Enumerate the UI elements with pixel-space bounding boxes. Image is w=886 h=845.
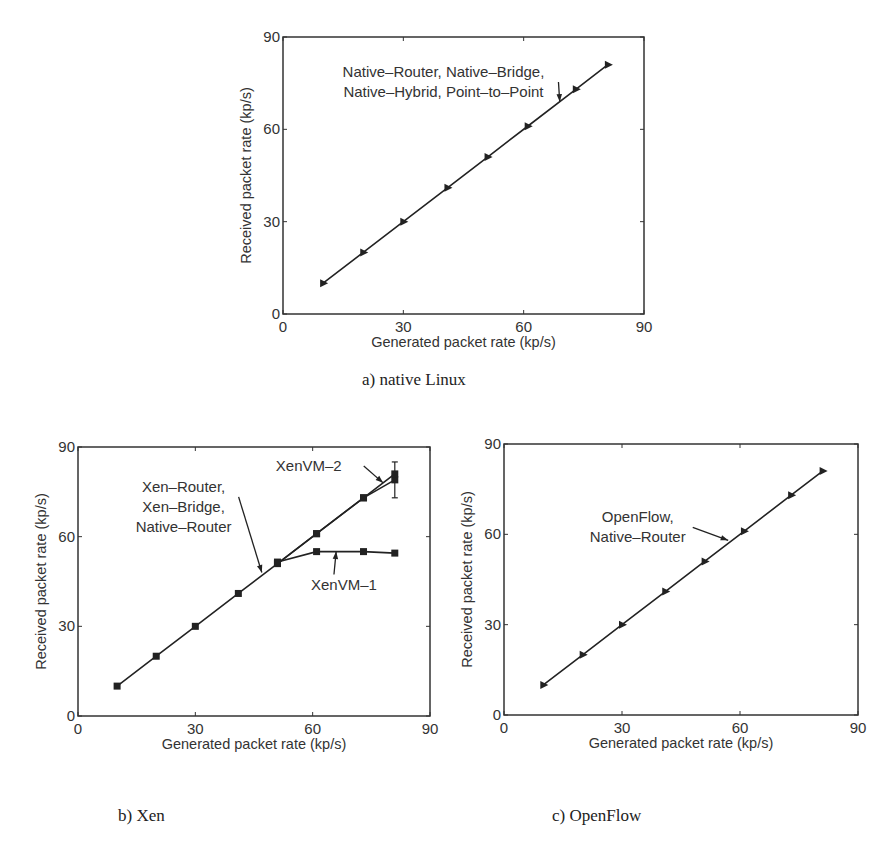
y-tick-label: 60 <box>58 528 75 545</box>
annotation-label: XenVM–2 <box>276 457 342 474</box>
x-tick-label: 0 <box>74 720 82 737</box>
data-point-marker <box>605 61 613 69</box>
x-tick-label: 0 <box>279 318 287 335</box>
data-point-marker <box>313 548 320 555</box>
caption-b: b) Xen <box>118 806 165 826</box>
y-tick-label: 0 <box>272 305 280 322</box>
x-tick-label: 60 <box>304 720 321 737</box>
x-tick-label: 90 <box>422 720 439 737</box>
y-tick-label: 90 <box>484 435 501 452</box>
y-axis-label: Received packet rate (kp/s) <box>238 87 254 264</box>
data-point-marker <box>192 623 199 630</box>
chart-c: 03060900306090Generated packet rate (kp/… <box>459 435 866 751</box>
data-point-marker <box>274 559 281 566</box>
y-tick-label: 0 <box>493 706 501 723</box>
annotation-label: Native–Router, Native–Bridge, <box>343 63 545 80</box>
figure-canvas: 03060900306090Generated packet rate (kp/… <box>0 0 886 845</box>
series-line <box>543 471 822 685</box>
x-axis-label: Generated packet rate (kp/s) <box>162 736 347 752</box>
data-point-marker <box>313 530 320 537</box>
y-axis-label: Received packet rate (kp/s) <box>459 491 475 668</box>
x-tick-label: 60 <box>515 318 532 335</box>
caption-a: a) native Linux <box>362 370 466 390</box>
x-tick-label: 90 <box>636 318 653 335</box>
data-point-marker <box>235 590 242 597</box>
annotation-label: Native–Hybrid, Point–to–Point <box>343 83 544 100</box>
y-tick-label: 30 <box>484 616 501 633</box>
y-tick-label: 60 <box>263 120 280 137</box>
data-point-marker <box>360 494 367 501</box>
y-tick-label: 0 <box>67 707 75 724</box>
x-tick-label: 0 <box>500 719 508 736</box>
caption-c: c) OpenFlow <box>552 806 641 826</box>
x-tick-label: 90 <box>850 719 867 736</box>
arrowhead-icon <box>257 565 262 573</box>
y-tick-label: 90 <box>58 438 75 455</box>
chart-b: 03060900306090Generated packet rate (kp/… <box>33 438 438 752</box>
y-tick-label: 30 <box>58 617 75 634</box>
annotation-label: Native–Router <box>136 518 232 535</box>
x-axis-label: Generated packet rate (kp/s) <box>371 334 556 350</box>
x-axis-label: Generated packet rate (kp/s) <box>589 735 774 751</box>
annotation-label: XenVM–1 <box>311 576 377 593</box>
x-tick-label: 30 <box>395 318 412 335</box>
data-point-marker <box>153 653 160 660</box>
annotation-label: Native–Router <box>590 528 686 545</box>
annotation-label: OpenFlow, <box>602 508 674 525</box>
x-tick-label: 30 <box>187 720 204 737</box>
annotation-label: Xen–Router, <box>142 478 225 495</box>
y-tick-label: 30 <box>263 213 280 230</box>
x-tick-label: 30 <box>614 719 631 736</box>
arrowhead-icon <box>720 535 728 540</box>
data-point-marker <box>360 548 367 555</box>
data-point-marker <box>114 683 121 690</box>
x-tick-label: 60 <box>732 719 749 736</box>
series-line <box>277 474 394 564</box>
chart-a: 03060900306090Generated packet rate (kp/… <box>238 28 652 350</box>
annotation-arrow <box>239 497 262 573</box>
y-tick-label: 60 <box>484 525 501 542</box>
annotation-label: Xen–Bridge, <box>142 498 225 515</box>
data-point-marker <box>391 550 398 557</box>
data-point-marker <box>820 467 828 475</box>
y-axis-label: Received packet rate (kp/s) <box>33 493 49 670</box>
y-tick-label: 90 <box>263 28 280 45</box>
